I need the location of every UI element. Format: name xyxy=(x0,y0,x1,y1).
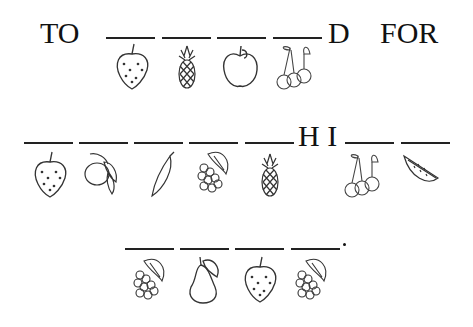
blank-3-3 xyxy=(235,248,284,250)
blank-2-5 xyxy=(245,142,294,144)
pear-icon xyxy=(183,255,223,305)
strawberry-icon xyxy=(112,42,152,92)
watermelon-icon xyxy=(400,148,440,198)
grapes-icon xyxy=(194,148,234,198)
banana-icon xyxy=(140,150,180,200)
blank-2-2 xyxy=(79,142,128,144)
strawberry-icon xyxy=(30,150,70,200)
blank-2-4 xyxy=(189,142,238,144)
blank-1-2 xyxy=(162,37,211,39)
blank-2-3 xyxy=(134,142,183,144)
word-to: TO xyxy=(40,18,79,48)
word-for: FOR xyxy=(380,18,438,48)
grapes-icon xyxy=(292,255,332,305)
blank-3-4 xyxy=(291,248,340,250)
cherries-icon xyxy=(342,150,382,200)
letters-hi: H I xyxy=(298,121,337,151)
lemon-icon xyxy=(82,148,122,198)
blank-1-4 xyxy=(273,37,322,39)
blank-3-2 xyxy=(180,248,229,250)
blank-1-3 xyxy=(217,37,266,39)
letter-d: D xyxy=(328,18,350,48)
cherries-icon xyxy=(274,42,314,92)
blank-1-1 xyxy=(106,37,155,39)
grapes-icon xyxy=(130,255,170,305)
apple-icon xyxy=(220,42,260,92)
pineapple-icon xyxy=(167,42,207,92)
blank-2-7 xyxy=(401,142,450,144)
blank-3-1 xyxy=(125,248,174,250)
blank-2-1 xyxy=(24,142,73,144)
period xyxy=(343,243,346,246)
strawberry-icon xyxy=(240,255,280,305)
blank-2-6 xyxy=(345,142,394,144)
pineapple-icon xyxy=(250,150,290,200)
